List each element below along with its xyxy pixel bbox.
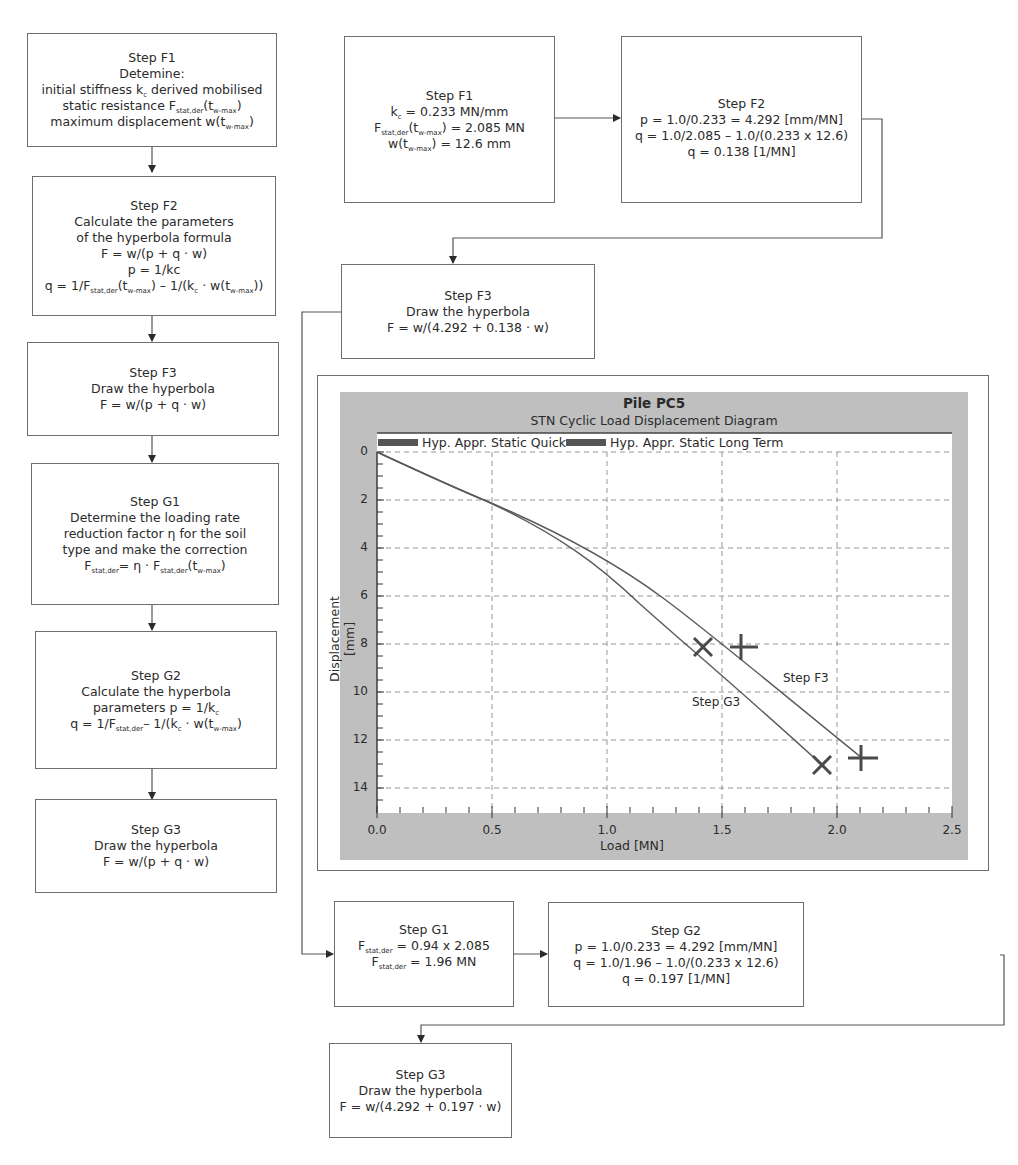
y-axis-label: Displacement [mm]: [327, 579, 357, 699]
x-tick-label: 0.0: [357, 823, 397, 837]
legend-item-static-long-term: Hyp. Appr. Static Long Term: [566, 435, 783, 450]
legend-item-static-quick: Hyp. Appr. Static Quick: [378, 435, 566, 450]
right-step-g3-box: Step G3 Draw the hyperbola F = w/(4.292 …: [329, 1043, 512, 1138]
y-tick-label: 4: [338, 540, 368, 554]
plot-area: [377, 433, 952, 813]
x-tick-label: 2.5: [932, 823, 972, 837]
x-tick-label: 1.0: [587, 823, 627, 837]
right-step-g1-box: Step G1 Fstat,der = 0.94 x 2.085 Fstat,d…: [334, 901, 514, 1007]
y-tick-label: 2: [338, 492, 368, 506]
y-tick-label: 14: [338, 780, 368, 794]
x-tick-label: 1.5: [702, 823, 742, 837]
annotation-step-g3: Step G3: [692, 695, 740, 709]
right-step-g2-box: Step G2 p = 1.0/0.233 = 4.292 [mm/MN] q …: [548, 902, 804, 1007]
x-tick-label: 0.5: [472, 823, 512, 837]
x-tick-label: 2.0: [817, 823, 857, 837]
annotation-step-f3: Step F3: [783, 671, 829, 685]
x-axis-label: Load [MN]: [600, 838, 664, 853]
y-tick-label: 12: [338, 732, 368, 746]
y-tick-label: 0: [338, 444, 368, 458]
chart-legend: Hyp. Appr. Static Quick Hyp. Appr. Stati…: [378, 435, 783, 450]
